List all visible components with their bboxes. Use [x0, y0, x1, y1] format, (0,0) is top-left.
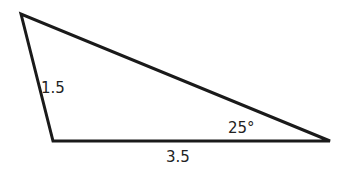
triangle-diagram: 1.5 25° 3.5 [0, 0, 347, 174]
angle-right-label: 25° [228, 119, 255, 137]
triangle [21, 14, 330, 141]
side-bottom-label: 3.5 [166, 148, 190, 166]
side-left-label: 1.5 [41, 79, 65, 97]
